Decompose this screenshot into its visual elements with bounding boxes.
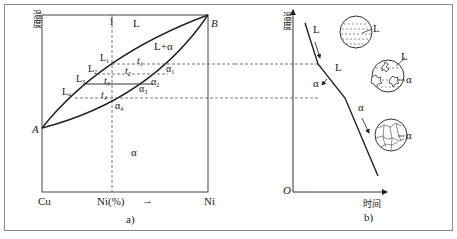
x-label-cu: Cu bbox=[38, 196, 51, 207]
liquidus-point-l1: L1 bbox=[100, 52, 109, 67]
solidus-point-a4: α4 bbox=[115, 100, 123, 115]
grain-microstructure bbox=[375, 119, 407, 151]
liquidus-point-l3: L3 bbox=[76, 73, 85, 88]
two-phase-region-label: L+α bbox=[154, 41, 173, 52]
solidus-point-a3: α3 bbox=[139, 83, 147, 98]
origin-label: O bbox=[283, 185, 291, 196]
panel-a-temperature-label: 温度 bbox=[31, 10, 42, 28]
liquidus-point-l4: L4 bbox=[62, 86, 71, 101]
temperature-t4: t4 bbox=[101, 89, 107, 104]
micro-dendrite-alpha-label: α bbox=[406, 74, 412, 85]
micro-liquid-label: L bbox=[373, 23, 380, 34]
alloy-line-label: I bbox=[110, 16, 113, 27]
liquid-region-label: L bbox=[133, 18, 140, 29]
phase-diagram-box bbox=[42, 15, 208, 192]
time-axis-label: 时间 bbox=[363, 199, 381, 210]
temperature-t2: t2 bbox=[125, 65, 131, 80]
solidus-point-a1: α1 bbox=[166, 63, 174, 78]
curve-label-liquid: L bbox=[313, 24, 320, 35]
liquid-microstructure bbox=[340, 16, 372, 48]
liquidus-point-l2: L2 bbox=[88, 63, 97, 78]
point-b-label: B bbox=[211, 18, 218, 29]
solidus-point-a2: α2 bbox=[151, 76, 159, 91]
x-label-ni: Ni bbox=[204, 196, 215, 207]
point-a-label: A bbox=[32, 124, 39, 135]
temperature-t3: t3 bbox=[104, 75, 110, 90]
micro-dendrite-l-label: L bbox=[401, 51, 408, 62]
curve-label-transition-alpha: α bbox=[313, 78, 319, 89]
temperature-t1: t1 bbox=[137, 55, 143, 70]
panel-b-temperature-label: 温度 bbox=[281, 12, 292, 30]
diagram-graphics bbox=[0, 0, 457, 239]
micro-grain-label: α bbox=[406, 130, 412, 141]
panel-a-caption: a) bbox=[126, 214, 135, 225]
dendrite-microstructure bbox=[371, 58, 405, 92]
x-arrow: → bbox=[142, 195, 153, 206]
panel-b-caption: b) bbox=[364, 212, 373, 223]
solid-region-label: α bbox=[131, 147, 137, 158]
curve-label-solid: α bbox=[358, 102, 364, 113]
x-label-ni-percent: Ni(%) bbox=[97, 196, 125, 207]
curve-label-transition-l: L bbox=[335, 62, 342, 73]
